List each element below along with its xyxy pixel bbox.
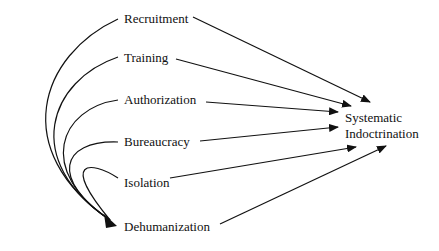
node-recruitment: Recruitment <box>124 12 188 26</box>
edge-dehumanization-to-indoctrination <box>220 146 386 224</box>
edge-bureaucracy-to-indoctrination <box>200 127 338 141</box>
edge-authorization-to-indoctrination <box>206 102 338 112</box>
node-dehumanization: Dehumanization <box>124 220 210 234</box>
edge-training-to-indoctrination <box>176 59 351 106</box>
node-systematic-indoctrination: Systematic Indoctrination <box>345 110 419 142</box>
edge-recruitment-to-dehumanization <box>46 19 118 220</box>
edge-recruitment-to-indoctrination <box>193 17 370 102</box>
node-bureaucracy: Bureaucracy <box>124 135 190 149</box>
node-authorization: Authorization <box>124 93 196 107</box>
edge-isolation-to-dehumanization <box>83 168 118 220</box>
edge-bureaucracy-to-dehumanization <box>69 142 118 220</box>
indoctrination-diagram: Recruitment Training Authorization Burea… <box>0 0 439 251</box>
edges-to-dehumanization <box>46 19 118 220</box>
dehumanization-arrowhead-icon <box>104 214 117 228</box>
target-line-2: Indoctrination <box>345 126 419 142</box>
node-isolation: Isolation <box>124 176 170 190</box>
edge-training-to-dehumanization <box>54 57 118 220</box>
target-line-1: Systematic <box>345 110 419 126</box>
node-training: Training <box>124 51 168 65</box>
